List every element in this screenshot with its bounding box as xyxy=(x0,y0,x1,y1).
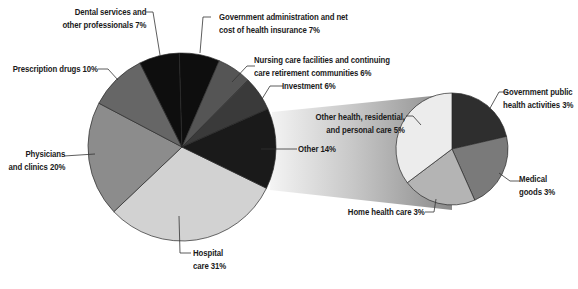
label-line: other professionals 7% xyxy=(62,18,146,31)
label-line: goods 3% xyxy=(519,185,555,198)
label-line: Government administration and net xyxy=(219,10,348,23)
label-line: Dental services and xyxy=(62,5,146,18)
breakout-pie xyxy=(396,93,508,205)
label-line: Other health, residential, xyxy=(316,110,405,123)
label-gov-admin: Government administration and net cost o… xyxy=(219,10,348,36)
main-pie xyxy=(88,53,276,241)
label-line: care retirement communities 6% xyxy=(254,66,390,79)
label-line: Nursing care facilities and continuing xyxy=(254,53,390,66)
label-line: Physicians xyxy=(8,147,65,160)
label-line: and personal care 5% xyxy=(316,123,405,136)
label-line: care 31% xyxy=(193,259,226,272)
pie-chart xyxy=(0,0,578,289)
label-physicians: Physicians and clinics 20% xyxy=(8,147,65,173)
label-other-health: Other health, residential, and personal … xyxy=(316,110,405,136)
label-line: Prescription drugs 10% xyxy=(13,62,98,75)
label-line: Hospital xyxy=(193,246,226,259)
label-dental: Dental services and other professionals … xyxy=(62,5,146,31)
label-investment: Investment 6% xyxy=(282,79,335,92)
label-medical-goods: Medical goods 3% xyxy=(519,172,555,198)
label-home-health: Home health care 3% xyxy=(348,205,425,218)
label-line: Medical xyxy=(519,172,555,185)
label-hospital: Hospital care 31% xyxy=(193,246,226,272)
label-nursing: Nursing care facilities and continuing c… xyxy=(254,53,390,79)
label-line: Government public xyxy=(503,85,573,98)
label-line: Investment 6% xyxy=(282,79,335,92)
label-line: cost of health insurance 7% xyxy=(219,23,348,36)
label-other: Other 14% xyxy=(298,142,336,155)
label-line: and clinics 20% xyxy=(8,160,65,173)
label-line: Other 14% xyxy=(298,142,336,155)
label-line: health activities 3% xyxy=(503,98,573,111)
label-line: Home health care 3% xyxy=(348,205,425,218)
label-gov-public: Government public health activities 3% xyxy=(503,85,573,111)
label-prescription: Prescription drugs 10% xyxy=(13,62,98,75)
